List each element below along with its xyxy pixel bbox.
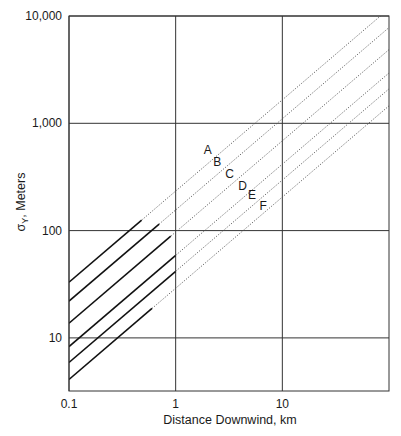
y-axis-title: σY, Meters (14, 173, 30, 232)
y-tick-label: 10 (49, 331, 63, 345)
x-tick-label: 10 (276, 397, 290, 411)
curve-E-solid (69, 271, 176, 362)
y-tick-label: 1,000 (32, 116, 62, 130)
curve-label-D: D (238, 179, 247, 193)
y-tick-label: 100 (42, 224, 62, 238)
grid-lines (69, 16, 389, 391)
curve-label-C: C (225, 167, 234, 181)
y-axis-title-units: , Meters (14, 173, 28, 218)
y-tick-label: 10,000 (25, 9, 62, 23)
curve-B-dotted (159, 28, 389, 225)
plot-frame (69, 16, 389, 391)
y-axis-tick-labels: 101001,00010,000 (25, 9, 62, 345)
sigma-y-curves (69, 9, 389, 380)
dispersion-chart: 0.1110 101001,00010,000 ABCDEF Distance … (0, 0, 401, 436)
curve-label-F: F (259, 199, 266, 213)
x-axis-title: Distance Downwind, km (163, 413, 296, 427)
curve-F-dotted (152, 106, 389, 309)
curve-label-B: B (213, 155, 221, 169)
x-tick-label: 1 (172, 397, 179, 411)
curve-B-solid (69, 224, 159, 301)
curve-label-E: E (248, 188, 256, 202)
curve-A-dotted (142, 9, 389, 220)
x-tick-label: 0.1 (61, 397, 78, 411)
x-axis-tick-labels: 0.1110 (61, 397, 290, 411)
curve-A-solid (69, 220, 142, 282)
curve-C-solid (69, 236, 171, 323)
curve-F-solid (69, 308, 152, 379)
curve-label-A: A (204, 143, 212, 157)
